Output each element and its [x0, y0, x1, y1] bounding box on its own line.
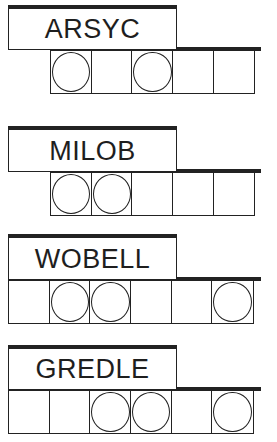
answer-cell[interactable]: [213, 172, 255, 216]
answer-cell-circled[interactable]: [130, 390, 172, 434]
answer-cell[interactable]: [172, 172, 214, 216]
answer-cell-circled[interactable]: [211, 280, 253, 324]
scrambled-word: GREDLE: [35, 354, 149, 385]
answer-cell-circled[interactable]: [50, 172, 92, 216]
circle-marker-icon: [52, 52, 90, 92]
circle-marker-icon: [91, 282, 129, 322]
answer-cell-circled[interactable]: [91, 172, 133, 216]
answer-cells: [8, 390, 254, 434]
answer-cell[interactable]: [8, 390, 50, 434]
answer-cells: [50, 50, 255, 94]
answer-cell[interactable]: [172, 50, 214, 94]
answer-cell[interactable]: [8, 280, 50, 324]
scrambled-word-box: GREDLE: [8, 345, 177, 390]
circle-marker-icon: [93, 174, 131, 214]
circle-marker-icon: [133, 52, 171, 92]
answer-cell-circled[interactable]: [211, 390, 253, 434]
answer-cell[interactable]: [131, 172, 173, 216]
scrambled-word: ARSYC: [45, 14, 141, 45]
scrambled-word: MILOB: [49, 136, 136, 167]
circle-marker-icon: [132, 392, 170, 432]
scrambled-word: WOBELL: [35, 244, 151, 275]
circle-marker-icon: [52, 174, 90, 214]
circle-marker-icon: [213, 282, 251, 322]
answer-cells: [50, 172, 255, 216]
answer-cell-circled[interactable]: [89, 280, 131, 324]
answer-cell-circled[interactable]: [131, 50, 173, 94]
circle-marker-icon: [91, 392, 129, 432]
answer-cells: [8, 280, 254, 324]
answer-cell[interactable]: [171, 280, 213, 324]
answer-cell[interactable]: [49, 390, 91, 434]
scrambled-word-box: MILOB: [8, 126, 177, 172]
circle-marker-icon: [213, 392, 251, 432]
circle-marker-icon: [51, 282, 89, 322]
answer-cell-circled[interactable]: [49, 280, 91, 324]
answer-cell[interactable]: [171, 390, 213, 434]
answer-cell-circled[interactable]: [50, 50, 92, 94]
answer-cell[interactable]: [213, 50, 255, 94]
answer-cell[interactable]: [91, 50, 133, 94]
scrambled-word-box: ARSYC: [8, 5, 177, 50]
scrambled-word-box: WOBELL: [8, 234, 177, 280]
answer-cell[interactable]: [130, 280, 172, 324]
answer-cell-circled[interactable]: [89, 390, 131, 434]
